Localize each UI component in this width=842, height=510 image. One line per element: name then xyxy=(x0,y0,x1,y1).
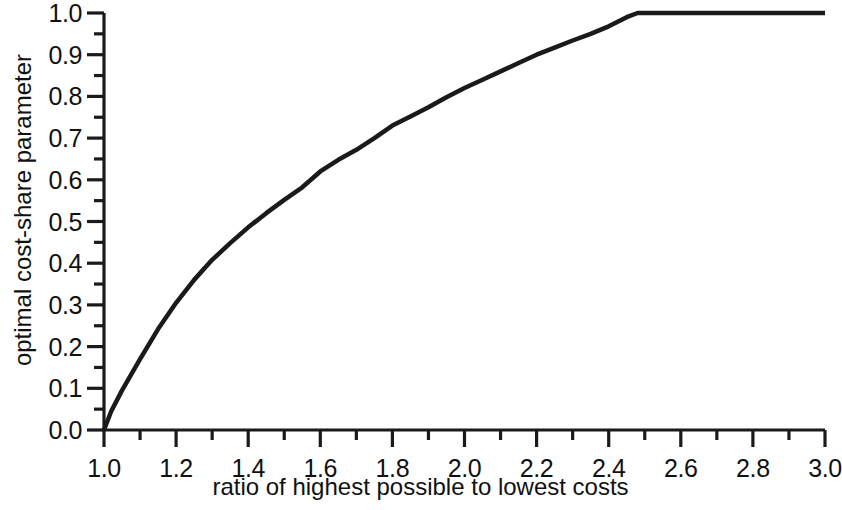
x-axis-title: ratio of highest possible to lowest cost… xyxy=(0,473,841,501)
data-series-line xyxy=(104,13,825,430)
axis-lines xyxy=(104,13,825,430)
y-axis-ticks xyxy=(87,13,104,430)
y-axis-title: optimal cost-share parameter xyxy=(8,0,38,430)
x-axis-ticks xyxy=(104,430,825,447)
data-series-path xyxy=(104,13,825,430)
